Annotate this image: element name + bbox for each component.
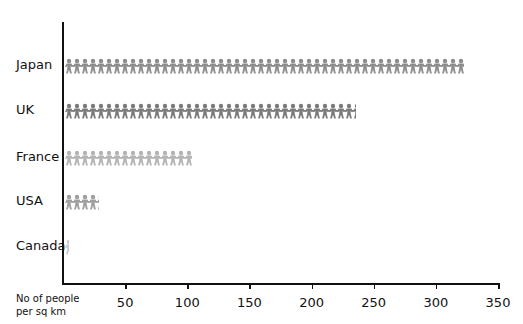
person-icon bbox=[65, 58, 464, 74]
x-tick bbox=[187, 283, 189, 289]
person-icon bbox=[65, 103, 356, 119]
bar-usa bbox=[65, 194, 99, 210]
category-label: Japan bbox=[16, 57, 52, 72]
bar-uk bbox=[65, 103, 356, 119]
bar-france bbox=[65, 150, 192, 166]
person-icon bbox=[65, 239, 69, 255]
pictogram-bar-chart: No of people per sq km Japan bbox=[0, 0, 523, 324]
x-tick-label: 100 bbox=[175, 295, 200, 310]
person-icon bbox=[65, 194, 99, 210]
x-tick bbox=[436, 283, 438, 289]
x-tick-label: 300 bbox=[423, 295, 448, 310]
x-tick bbox=[125, 283, 127, 289]
category-label: France bbox=[16, 149, 59, 164]
x-tick-label: 250 bbox=[361, 295, 386, 310]
x-tick-label: 50 bbox=[117, 295, 134, 310]
x-tick bbox=[498, 283, 500, 289]
category-label: USA bbox=[16, 193, 43, 208]
category-label: Canada bbox=[16, 238, 65, 253]
category-label: UK bbox=[16, 102, 34, 117]
bar-canada bbox=[65, 239, 69, 255]
x-axis-label: No of people per sq km bbox=[16, 292, 80, 318]
x-tick-label: 150 bbox=[237, 295, 262, 310]
bar-japan bbox=[65, 58, 464, 74]
x-axis bbox=[62, 283, 499, 285]
x-tick-label: 200 bbox=[299, 295, 324, 310]
x-tick-label: 350 bbox=[486, 295, 511, 310]
x-tick bbox=[312, 283, 314, 289]
person-icon bbox=[65, 150, 192, 166]
x-tick bbox=[249, 283, 251, 289]
x-tick bbox=[374, 283, 376, 289]
